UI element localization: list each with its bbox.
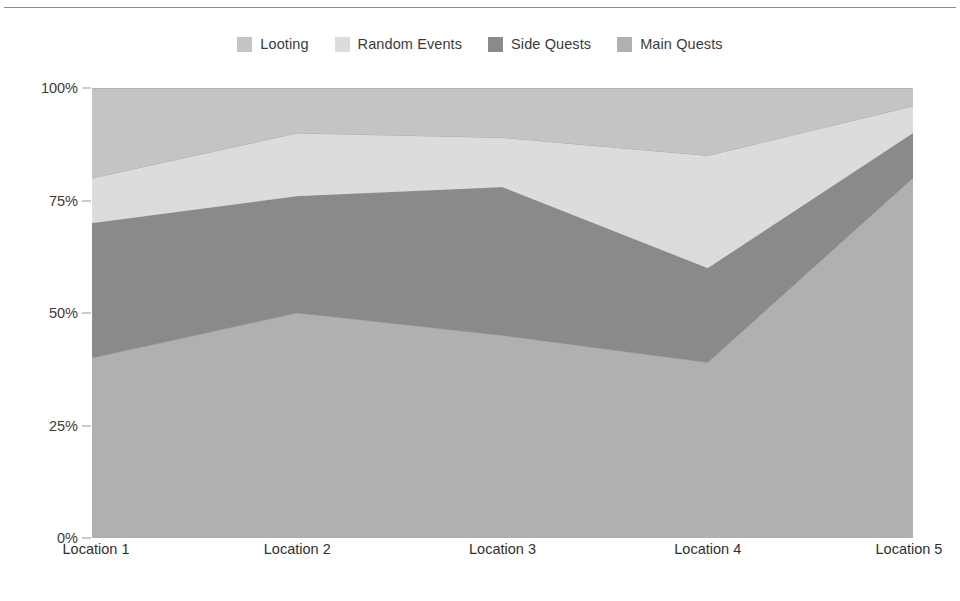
x-axis-tick-label: Location 3: [469, 541, 536, 557]
x-axis-tick-label: Location 5: [876, 541, 943, 557]
legend-label: Side Quests: [511, 36, 591, 52]
legend-label: Main Quests: [640, 36, 723, 52]
stacked-area-chart: LootingRandom EventsSide QuestsMain Ques…: [0, 0, 960, 601]
y-axis-tick-label: 75%: [49, 193, 78, 209]
y-axis-tick-mark: [82, 88, 91, 89]
x-axis-tick-label: Location 1: [63, 541, 130, 557]
legend-item[interactable]: Random Events: [335, 36, 462, 52]
y-axis-tick-mark: [82, 200, 91, 201]
legend-swatch-icon: [335, 37, 350, 52]
legend-item[interactable]: Main Quests: [617, 36, 723, 52]
x-axis: Location 1Location 2Location 3Location 4…: [0, 541, 960, 571]
header-divider: [4, 7, 956, 8]
chart-legend: LootingRandom EventsSide QuestsMain Ques…: [0, 36, 960, 52]
legend-swatch-icon: [617, 37, 632, 52]
y-axis: 0%25%50%75%100%: [0, 88, 92, 538]
y-axis-tick-label: 25%: [49, 418, 78, 434]
y-axis-tick-label: 50%: [49, 305, 78, 321]
legend-label: Looting: [260, 36, 308, 52]
legend-item[interactable]: Looting: [237, 36, 308, 52]
y-axis-tick-mark: [82, 538, 91, 539]
legend-item[interactable]: Side Quests: [488, 36, 591, 52]
plot-svg: [92, 88, 913, 538]
x-axis-tick-label: Location 4: [674, 541, 741, 557]
x-axis-tick-label: Location 2: [264, 541, 331, 557]
legend-label: Random Events: [358, 36, 462, 52]
y-axis-tick-mark: [82, 313, 91, 314]
y-axis-tick-mark: [82, 425, 91, 426]
plot-area: [92, 88, 913, 538]
legend-swatch-icon: [488, 37, 503, 52]
legend-swatch-icon: [237, 37, 252, 52]
y-axis-tick-label: 100%: [41, 80, 78, 96]
